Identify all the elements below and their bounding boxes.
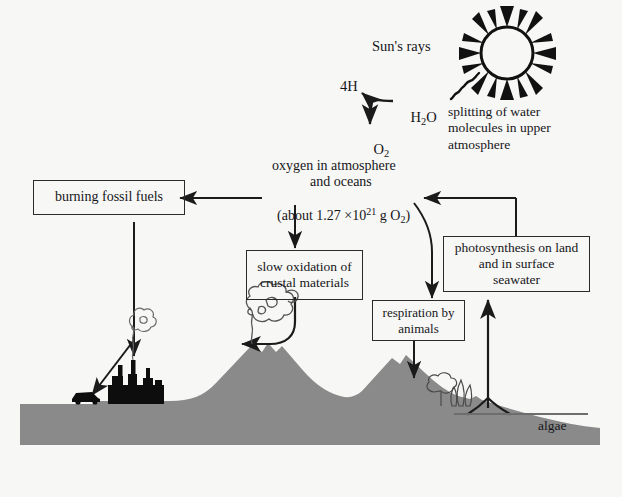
product-4h-label: 4H bbox=[340, 78, 358, 95]
h2o-o: O bbox=[426, 109, 436, 125]
suns-rays-label: Sun's rays bbox=[372, 38, 431, 55]
reservoir-line3: (about 1.27 ×1021 g O2) bbox=[263, 190, 410, 242]
reservoir-line2: and oceans bbox=[310, 174, 372, 190]
reactant-h2o-label: H2O bbox=[396, 92, 437, 144]
box-photosynthesis[interactable]: photosynthesis on land and in surface se… bbox=[443, 236, 590, 292]
box-respiration-by-animals[interactable]: respiration by animals bbox=[372, 300, 465, 341]
reservoir-line1: oxygen in atmosphere bbox=[272, 158, 396, 174]
reservoir-suffix: ) bbox=[405, 208, 410, 223]
car-icon bbox=[72, 392, 100, 405]
sun-icon bbox=[459, 6, 556, 100]
reservoir-exponent: 21 bbox=[366, 206, 376, 217]
o2-o: O bbox=[374, 141, 384, 157]
splitting-annotation: splitting of water molecules in upper at… bbox=[448, 104, 551, 153]
o2-sub: 2 bbox=[384, 148, 389, 159]
box-slow-oxidation[interactable]: slow oxidation of crustal materials bbox=[246, 250, 363, 300]
reservoir-base: 10 bbox=[352, 208, 366, 223]
arrow-reservoir-to-respiration bbox=[414, 203, 432, 298]
reservoir-prefix: (about 1.27 bbox=[277, 208, 344, 223]
algae-label: algae bbox=[538, 418, 566, 434]
box-burning-fossil-fuels[interactable]: burning fossil fuels bbox=[33, 180, 185, 215]
reservoir-unit: g O bbox=[376, 208, 400, 223]
landform bbox=[20, 343, 600, 445]
arrow-slow-oxidation-to-volcano bbox=[242, 297, 295, 344]
oxygen-cycle-diagram: Sun's rays 4H H2O O2 splitting of water … bbox=[0, 0, 622, 497]
reservoir-times: × bbox=[344, 208, 352, 223]
h2o-h: H bbox=[411, 109, 421, 125]
arrow-to-4h bbox=[362, 93, 393, 101]
factory-icon bbox=[108, 360, 164, 404]
